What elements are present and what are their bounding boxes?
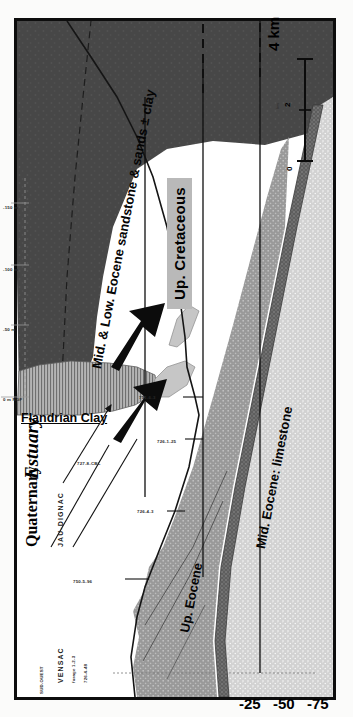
town-label-jau-dignac: JAU-DIGNAC: [57, 492, 64, 547]
borehole-label-bh5: 727-8-CBL: [77, 461, 101, 466]
unit-label-up-cretaceous: Up. Cretaceous: [167, 178, 192, 309]
corner-note: SUD-OUEST: [39, 666, 44, 694]
figure-frame: Up. Cretaceous Mid. & Low. Eocene sandst…: [14, 18, 336, 700]
borehole-label-bh6: 751-6-3: [139, 395, 156, 400]
depth-tick--75: -75: [307, 695, 329, 712]
figure-page: Up. Cretaceous Mid. & Low. Eocene sandst…: [0, 0, 353, 717]
town-sub-label-2: 726-4-48: [83, 664, 88, 683]
scale-bar: 4 km 2 km 0: [261, 45, 325, 175]
top-tick-ruler: [0, 21, 35, 697]
scale-tick-0: 0: [285, 167, 294, 171]
borehole-label-bh3: 726-4-3: [137, 509, 154, 514]
thick-arrow-lower: [111, 303, 165, 371]
depth-tick--50: -50: [273, 695, 295, 712]
scale-bar-caption: km: [275, 103, 280, 109]
scale-end-label: 4 km: [265, 17, 282, 51]
borehole-label-bh2: 750-5-96: [73, 579, 92, 584]
town-sub-label-1: forage 1-2-3: [71, 656, 76, 683]
borehole-label-bh4: 726-1-25: [157, 439, 176, 444]
scale-bar-graphic: [261, 45, 325, 175]
scale-tick-2: 2: [283, 103, 292, 107]
depth-tick--25: -25: [239, 695, 261, 712]
town-label-vensac: VENSAC: [57, 647, 64, 683]
